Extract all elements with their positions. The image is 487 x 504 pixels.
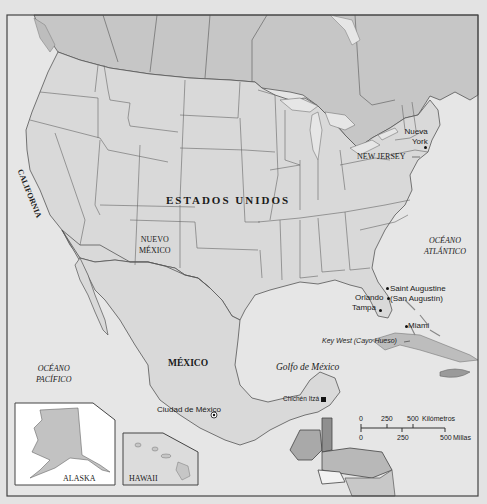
city-label-ciudad-de-mexico: Ciudad de México [157,405,221,414]
site-marker-chichen-itza [321,397,326,402]
island-kauai [135,443,141,447]
scale-mi-tick-500: 500 [440,434,452,441]
scale-mi-tick-250: 250 [397,434,409,441]
state-label-new-jersey: NEW JERSEY [357,152,406,161]
map-canvas [0,0,487,504]
scale-mi-tick-0: 0 [359,434,363,441]
city-label-orlando: Orlando [355,293,383,302]
ocean-label-pacific-line1: OCÉANO [36,363,71,374]
city-label-new-york: Nueva York [404,127,428,147]
city-label-saint-augustine-line1: Saint Augustine [390,284,446,294]
scale-km-tick-500: 500 [407,415,419,422]
ocean-label-atlantic-line2: ATLÁNTICO [424,246,466,257]
scale-km-tick-250: 250 [381,415,393,422]
city-label-key-west: Key West (Cayo Hueso) [322,337,397,344]
scale-mi-unit: Millas [453,434,471,441]
city-label-saint-augustine: Saint Augustine (San Augustín) [390,284,446,304]
city-marker-new-york [424,146,427,149]
inset-label-alaska: ALASKA [63,474,95,483]
island-maui [161,454,171,458]
city-marker-saint-augustine [386,287,389,290]
state-label-new-mexico: NUEVO MÉXICO [139,234,171,256]
ocean-label-atlantic: OCÉANO ATLÁNTICO [424,235,466,257]
state-label-new-mexico-line2: MÉXICO [139,245,171,256]
scale-km-unit: Kilómetros [422,415,455,422]
alaska-inset [15,403,115,485]
city-label-miami: Miami [408,321,429,330]
state-label-new-mexico-line1: NUEVO [139,234,171,245]
gulf-label: Golfo de México [276,362,339,372]
scale-km-tick-0: 0 [359,415,363,422]
island-oahu [152,447,158,451]
belize [322,418,332,452]
city-label-saint-augustine-line2: (San Augustín) [390,294,446,304]
ocean-label-atlantic-line1: OCÉANO [424,235,466,246]
ocean-label-pacific-line2: PACÍFICO [36,374,71,385]
ocean-label-pacific: OCÉANO PACÍFICO [36,363,71,385]
city-marker-orlando [387,297,390,300]
city-label-tampa: Tampa [352,303,376,312]
city-label-new-york-line1: Nueva [404,127,428,137]
city-marker-tampa [379,309,382,312]
city-label-chichen-itza: Chichén Itzá [283,395,319,402]
inset-label-hawaii: HAWAII [129,474,158,483]
city-marker-miami [405,325,408,328]
country-label-usa: ESTADOS UNIDOS [166,194,290,206]
country-label-mexico: MÉXICO [168,358,208,368]
